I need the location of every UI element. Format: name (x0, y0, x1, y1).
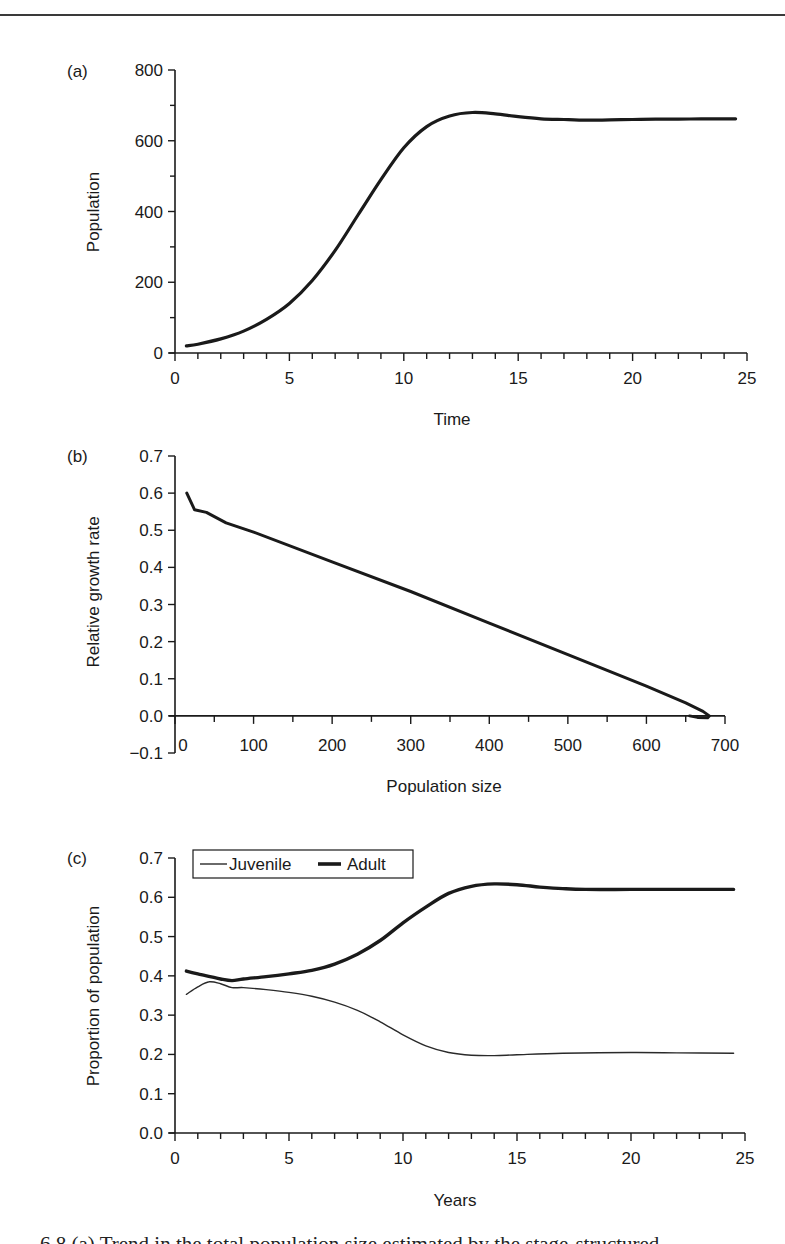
x-tick-label: 5 (285, 369, 294, 388)
panel-c-y-tick-labels: 0.0 0.1 0.2 0.3 0.4 0.5 0.6 0.7 (139, 849, 163, 1143)
x-tick-label: 600 (632, 736, 660, 755)
y-tick-label: 800 (135, 61, 163, 80)
panel-b-y-axis-label: Relative growth rate (84, 516, 103, 667)
panel-a-y-axis-label: Population (84, 172, 103, 252)
panel-c-y-axis-label: Proportion of population (84, 906, 103, 1087)
panel-a-y-tick-labels: 0 200 400 600 800 (135, 61, 163, 363)
panel-b-x-axis-label: Population size (386, 777, 501, 796)
x-tick-label: 0 (170, 369, 179, 388)
y-tick-label: 0.5 (139, 928, 163, 947)
legend-adult-label: Adult (347, 855, 386, 874)
x-tick-label: 400 (475, 736, 503, 755)
legend-juvenile-label: Juvenile (229, 855, 291, 874)
x-tick-label: 300 (397, 736, 425, 755)
y-tick-label: 0.5 (139, 521, 163, 540)
adult-curve (186, 884, 733, 981)
x-tick-label: 200 (318, 736, 346, 755)
y-tick-label: 0.6 (139, 888, 163, 907)
panel-b-x-tick-labels: 0 100 200 300 400 500 600 700 (178, 736, 739, 755)
x-tick-label: 20 (623, 369, 642, 388)
growth-rate-curve (187, 493, 710, 718)
panel-c-label: (c) (67, 849, 87, 868)
y-tick-label: 200 (135, 273, 163, 292)
figure: (a) Population Time 0 200 400 600 800 0 … (0, 0, 785, 1244)
y-tick-label: 0.7 (139, 447, 163, 466)
x-tick-label: 10 (394, 369, 413, 388)
y-tick-label: 0.2 (139, 1045, 163, 1064)
legend: Juvenile Adult (193, 850, 413, 878)
y-tick-label: 0.6 (139, 484, 163, 503)
y-tick-label: 400 (135, 203, 163, 222)
panel-c-x-axis-label: Years (434, 1191, 477, 1210)
y-tick-label: −0.1 (129, 744, 163, 763)
x-tick-label: 0 (170, 1149, 179, 1168)
x-tick-label: 20 (622, 1149, 641, 1168)
x-tick-label: 25 (736, 1149, 755, 1168)
panel-a-x-tick-labels: 0 5 10 15 20 25 (170, 369, 756, 388)
x-tick-label: 15 (508, 1149, 527, 1168)
y-tick-label: 0.0 (139, 707, 163, 726)
y-tick-label: 0.2 (139, 633, 163, 652)
y-tick-label: 0.4 (139, 558, 163, 577)
y-tick-label: 0.1 (139, 670, 163, 689)
y-tick-label: 0.0 (139, 1124, 163, 1143)
x-tick-label: 10 (394, 1149, 413, 1168)
x-tick-label: 15 (509, 369, 528, 388)
y-tick-label: 0 (154, 344, 163, 363)
y-tick-label: 600 (135, 132, 163, 151)
y-tick-label: 0.7 (139, 849, 163, 868)
figure-caption: 6.8 (a) Trend in the total population si… (40, 1232, 659, 1244)
panel-b-growth-rate-vs-size: (b) Relative growth rate Population size… (67, 447, 739, 796)
panel-a-label: (a) (67, 62, 88, 81)
x-tick-label: 0 (178, 736, 187, 755)
x-tick-label: 25 (738, 369, 757, 388)
panel-b-label: (b) (67, 447, 88, 466)
y-tick-label: 0.4 (139, 967, 163, 986)
panel-c-axes (168, 858, 745, 1141)
y-tick-label: 0.3 (139, 596, 163, 615)
y-tick-label: 0.1 (139, 1085, 163, 1104)
panel-a-population-over-time: (a) Population Time 0 200 400 600 800 0 … (67, 61, 756, 429)
x-tick-label: 700 (711, 736, 739, 755)
panel-c-stage-proportions: (c) Proportion of population Years 0.0 0… (67, 849, 754, 1210)
panel-c-x-tick-labels: 0 5 10 15 20 25 (170, 1149, 754, 1168)
juvenile-curve (186, 982, 733, 1056)
population-curve (186, 112, 735, 345)
panel-b-y-tick-labels: −0.1 0.0 0.1 0.2 0.3 0.4 0.5 0.6 0.7 (129, 447, 163, 763)
x-tick-label: 100 (239, 736, 267, 755)
panel-a-x-axis-label: Time (433, 410, 470, 429)
y-tick-label: 0.3 (139, 1006, 163, 1025)
x-tick-label: 500 (554, 736, 582, 755)
x-tick-label: 5 (284, 1149, 293, 1168)
